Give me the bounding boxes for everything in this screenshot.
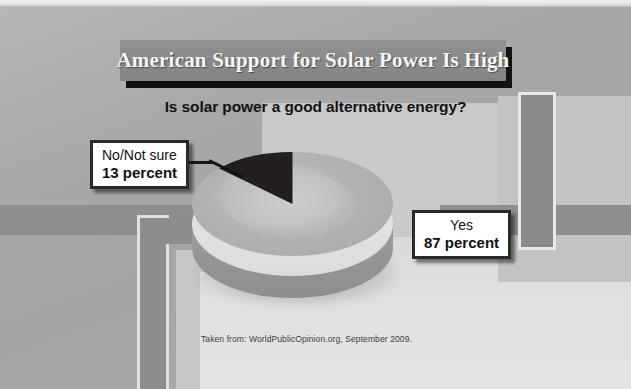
callout-yes[interactable]: Yes 87 percent: [412, 210, 511, 259]
title-bar: American Support for Solar Power Is High: [120, 40, 506, 81]
right-decor-hook-foot: [521, 222, 549, 247]
callout-no-not-sure[interactable]: No/Not sure 13 percent: [90, 140, 189, 189]
callout-no-label: No/Not sure: [102, 147, 177, 164]
source-attribution: Taken from: WorldPublicOpinion.org, Sept…: [201, 334, 412, 344]
photo-top-edge: [0, 0, 631, 7]
callout-yes-value: 87 percent: [424, 234, 499, 252]
slide-canvas: American Support for Solar Power Is High…: [0, 0, 631, 389]
right-decor-panel: [498, 96, 631, 282]
callout-no-value: 13 percent: [102, 164, 177, 182]
pie-chart: [186, 148, 401, 308]
callout-yes-label: Yes: [424, 217, 499, 234]
page-title: American Support for Solar Power Is High: [117, 48, 510, 73]
chart-question: Is solar power a good alternative energy…: [0, 98, 631, 116]
